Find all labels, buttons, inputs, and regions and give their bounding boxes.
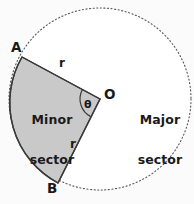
major-sector-label-line1: Major bbox=[131, 113, 189, 126]
point-label-a: A bbox=[11, 40, 22, 54]
major-sector-label-line2: sector bbox=[131, 153, 189, 166]
angle-theta-label: θ bbox=[84, 99, 92, 111]
major-sector-label: Major sector bbox=[131, 87, 189, 192]
radius-label-oa: r bbox=[59, 57, 65, 70]
minor-sector-label-line1: Minor bbox=[21, 113, 83, 126]
point-label-o-center: O bbox=[104, 87, 116, 101]
sector-diagram: A B O r r θ Minor sector Major sector bbox=[0, 0, 194, 204]
minor-sector-label-line2: sector bbox=[21, 153, 83, 166]
minor-sector-label: Minor sector bbox=[21, 87, 83, 192]
